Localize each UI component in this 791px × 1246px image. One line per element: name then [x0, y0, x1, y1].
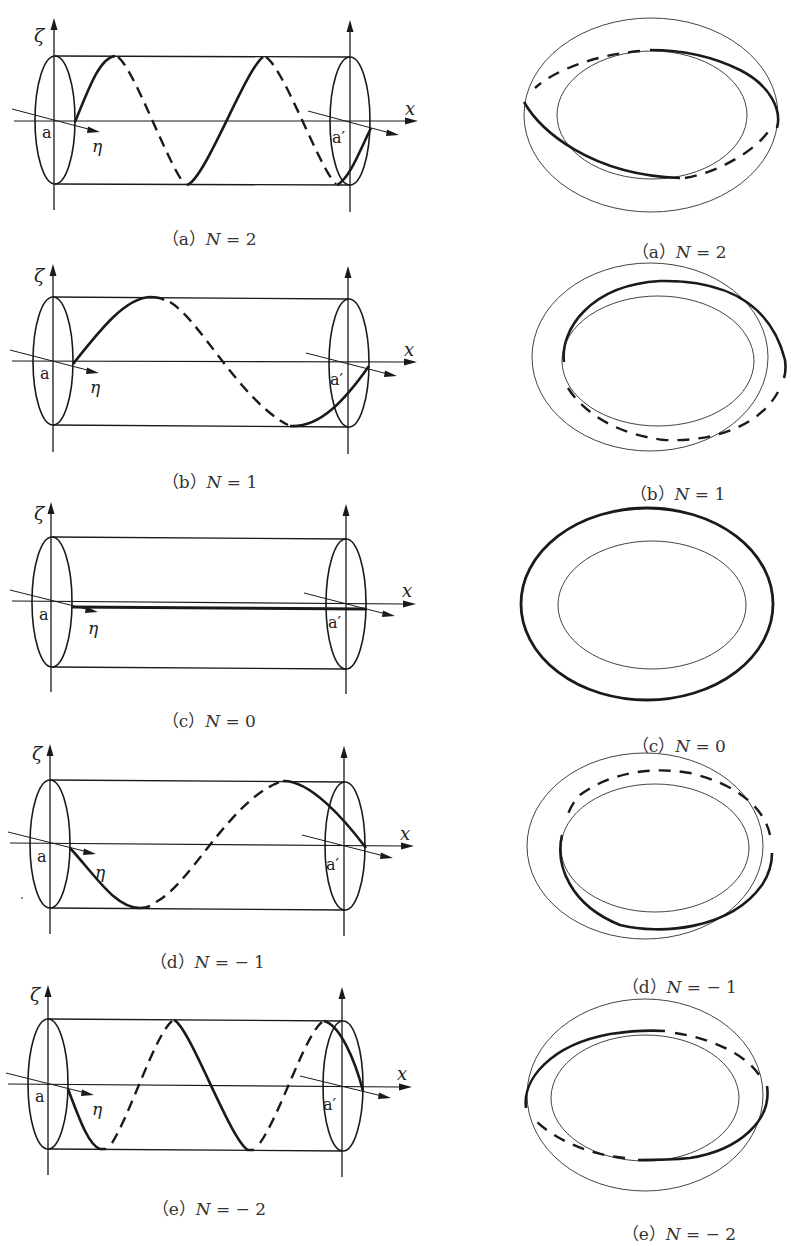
helix-front-segment	[75, 56, 115, 122]
caption-value: = − 2	[681, 1224, 737, 1244]
x-label: x	[400, 823, 410, 844]
ring-outer-edge	[532, 263, 768, 451]
zeta-arrow-icon	[50, 264, 57, 276]
zeta-arrow-icon	[45, 985, 52, 997]
cylinder-top-edge	[48, 1019, 343, 1021]
point-a-label: a	[40, 364, 50, 383]
helix-front-segment	[68, 1089, 106, 1149]
cylinder-diagram-a: ζ a η x a′	[0, 0, 430, 240]
eta-arrow-icon	[81, 1090, 94, 1097]
caption-var: N	[206, 229, 221, 249]
ring-inner-edge	[562, 296, 754, 426]
helix-straight-line	[72, 607, 367, 609]
eta-arrow-icon	[386, 130, 399, 137]
caption-index: （a）	[162, 229, 206, 249]
x-label: x	[402, 580, 412, 601]
eta-arrow-icon	[83, 849, 96, 856]
cylinder-bottom-edge	[52, 667, 346, 669]
cylinder-panel-b: ζ a η x a′ （b）N = 1	[0, 250, 430, 480]
eta-axis-left	[8, 832, 88, 852]
x-label: x	[397, 1063, 407, 1084]
zeta-label: ζ	[34, 264, 46, 286]
caption-var: N	[195, 952, 210, 972]
ring-outer-edge	[524, 18, 778, 212]
x-label: x	[405, 98, 415, 119]
caption-index: （b）	[162, 472, 207, 492]
caption-value: = − 1	[209, 952, 265, 972]
ring-curve-back	[675, 1033, 762, 1080]
eta-label: η	[92, 1099, 103, 1119]
ring-panel-a: （a）N = 2	[500, 0, 791, 245]
caption-value: = 0	[220, 711, 256, 731]
cylinder-bottom-edge	[48, 1149, 343, 1151]
zeta-label: ζ	[34, 502, 46, 524]
helix-back-segment	[112, 1021, 172, 1143]
eta-label: η	[92, 136, 103, 156]
cylinder-panel-a: ζ a η x a′ （a）N = 2	[0, 0, 430, 240]
ring-curve-front	[560, 835, 772, 929]
x-arrow-icon	[403, 601, 416, 608]
cylinder-diagram-b: ζ a η x a′	[0, 250, 430, 480]
point-a-prime-label: a′	[332, 128, 346, 147]
zeta-arrow-icon	[51, 18, 58, 30]
cylinder-top-edge	[50, 780, 345, 782]
ring-caption-e: （e）N = − 2	[600, 1200, 736, 1246]
point-a-label: a	[42, 123, 52, 142]
speck-mark	[21, 897, 23, 899]
ring-outer-edge-bold	[521, 508, 773, 700]
ring-curve-back	[568, 388, 778, 440]
caption-index: （d）	[150, 952, 195, 972]
cylinder-caption-e: （e）N = − 2	[130, 1175, 266, 1240]
x-arrow-icon	[399, 1084, 412, 1091]
point-a-label: a	[37, 847, 47, 866]
caption-index: （c）	[162, 711, 206, 731]
helix-back-segment	[260, 1022, 322, 1143]
ring-panel-c: （c）N = 0	[500, 490, 791, 735]
cylinder-panel-e: ζ a η x a′ （e）N = − 2	[0, 975, 430, 1215]
caption-value: = 2	[221, 229, 257, 249]
ring-panel-b: （b）N = 1	[500, 250, 791, 490]
zeta-arrow-icon	[47, 744, 54, 756]
ring-curve-front	[564, 281, 786, 378]
eta-arrow-icon	[384, 371, 397, 378]
zeta-arrow-icon	[347, 20, 354, 32]
ring-curve-front	[524, 102, 680, 178]
ring-panel-d: （d）N = − 1	[500, 735, 791, 985]
ring-diagram-c	[500, 490, 791, 735]
helix-front-segment	[324, 1021, 363, 1091]
helix-front-segment	[73, 297, 164, 364]
zeta-label: ζ	[34, 24, 46, 46]
point-a-label: a	[35, 1087, 45, 1106]
point-a-prime-label: a′	[326, 855, 340, 874]
helix-front-segment	[70, 848, 150, 908]
zeta-arrow-icon	[48, 502, 55, 514]
ring-outer-edge	[527, 999, 763, 1191]
zeta-arrow-icon	[339, 987, 346, 999]
eta-arrow-icon	[380, 853, 393, 860]
helix-back-segment	[170, 302, 288, 425]
eta-arrow-icon	[378, 1093, 391, 1100]
cylinder-top-edge	[52, 537, 346, 539]
caption-var: N	[207, 472, 222, 492]
caption-value: = − 2	[211, 1199, 267, 1219]
eta-axis-left	[6, 1073, 86, 1093]
ring-diagram-d	[500, 735, 791, 985]
point-a-label: a	[39, 605, 49, 624]
helix-back-segment	[156, 782, 280, 902]
zeta-label: ζ	[30, 983, 42, 1005]
ring-inner-edge	[558, 541, 746, 669]
ring-curve-front	[638, 1086, 768, 1160]
point-a-prime-label: a′	[330, 370, 344, 389]
eta-label: η	[90, 377, 101, 397]
ring-inner-edge	[557, 51, 747, 179]
cylinder-bottom-edge	[50, 908, 345, 910]
caption-var: N	[666, 1224, 681, 1244]
ring-diagram-b	[500, 250, 791, 490]
ring-curve-back	[535, 51, 640, 88]
zeta-arrow-icon	[343, 504, 350, 516]
cylinder-bottom-edge	[55, 184, 350, 185]
caption-var: N	[196, 1199, 211, 1219]
caption-var: N	[205, 711, 220, 731]
caption-index: （e）	[622, 1224, 666, 1244]
point-a-prime-label: a′	[328, 613, 342, 632]
